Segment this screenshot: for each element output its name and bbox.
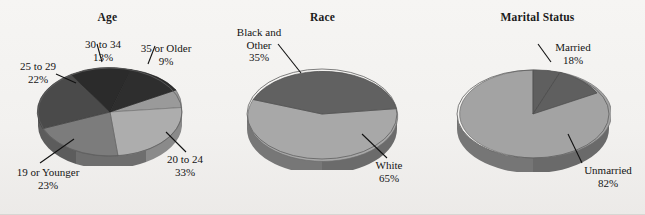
label-race-white: White 65% (361, 159, 417, 184)
pie-race (245, 58, 399, 170)
chart-race: Race Black and Other (215, 0, 430, 215)
label-age-35-or-older: 35 or Older 9% (130, 42, 202, 67)
label-race-black-and-other: Black and Other 35% (223, 26, 295, 64)
label-age-20-to-24: 20 to 24 33% (154, 153, 216, 178)
label-age-19-or-younger: 19 or Younger 23% (2, 166, 94, 191)
pie-marital (455, 60, 611, 172)
figure-canvas: Age (0, 0, 645, 215)
chart-title-race: Race (215, 11, 430, 23)
label-marital-unmarried: Unmarried 82% (570, 164, 645, 189)
chart-marital-status: Marital Status M (430, 0, 645, 215)
pie-marital-svg (455, 60, 611, 172)
label-marital-married: Married 18% (542, 41, 604, 66)
label-age-30-to-34: 30 to 34 13% (72, 38, 134, 63)
pie-race-slices (248, 71, 398, 161)
chart-title-age: Age (0, 11, 215, 23)
chart-age: Age (0, 0, 215, 215)
pie-race-svg (245, 58, 399, 170)
chart-title-marital-status: Marital Status (430, 11, 645, 23)
label-age-25-to-29: 25 to 29 22% (8, 60, 68, 85)
pie-marital-slices (460, 70, 611, 158)
